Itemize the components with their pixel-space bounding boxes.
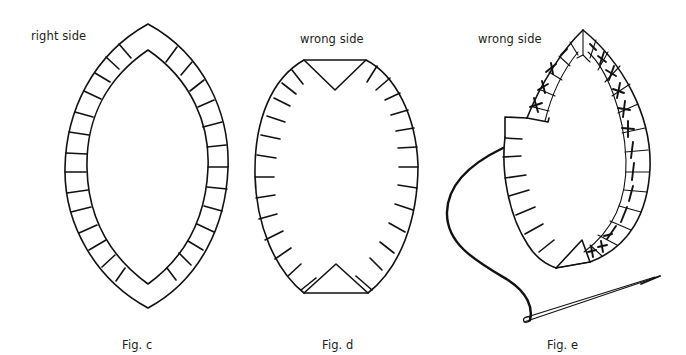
fig-d-patch xyxy=(255,60,418,293)
fig-d-clip-marks xyxy=(255,66,418,290)
fig-e-clip-marks xyxy=(503,138,554,252)
needle-icon xyxy=(523,276,660,323)
figures-drawing xyxy=(0,0,686,355)
fig-c-patch xyxy=(65,24,228,308)
thread xyxy=(447,148,531,320)
diagram-stage: right side wrong side wrong side Fig. c … xyxy=(0,0,686,355)
fig-e-patch xyxy=(503,30,650,268)
